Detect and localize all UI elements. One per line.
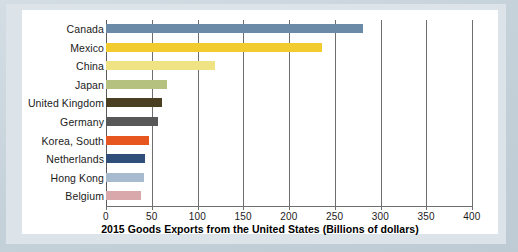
bar-row <box>106 187 472 204</box>
bar-row <box>106 132 472 149</box>
category-axis-labels: CanadaMexicoChinaJapanUnited KingdomGerm… <box>22 20 104 206</box>
category-label: Mexico <box>70 42 104 54</box>
x-tick-label: 350 <box>406 211 446 222</box>
x-tick-label: 200 <box>269 211 309 222</box>
bar-row <box>106 169 472 186</box>
x-tick-label: 100 <box>178 211 218 222</box>
tick-mark-150 <box>243 206 244 210</box>
tick-mark-250 <box>335 206 336 210</box>
x-tick-label: 150 <box>223 211 263 222</box>
bar-row <box>106 57 472 74</box>
bar <box>106 43 322 52</box>
bar-row <box>106 20 472 37</box>
category-label: Canada <box>67 23 104 35</box>
chart-screenshot: CanadaMexicoChinaJapanUnited KingdomGerm… <box>0 0 518 252</box>
bar-row <box>106 39 472 56</box>
tick-mark-300 <box>381 206 382 210</box>
category-label: United Kingdom <box>28 97 104 109</box>
bar <box>106 61 215 70</box>
bar <box>106 80 167 89</box>
tick-mark-100 <box>198 206 199 210</box>
bar <box>106 98 162 107</box>
category-label: China <box>76 60 104 72</box>
x-tick-label: 0 <box>86 211 126 222</box>
bar <box>106 154 145 163</box>
bar-row <box>106 76 472 93</box>
category-label: Germany <box>60 116 104 128</box>
category-label: Japan <box>75 79 104 91</box>
bar-row <box>106 94 472 111</box>
bar <box>106 173 144 182</box>
chart-panel: CanadaMexicoChinaJapanUnited KingdomGerm… <box>22 10 498 234</box>
category-label: Hong Kong <box>51 172 104 184</box>
bar <box>106 191 141 200</box>
plot-area <box>106 20 472 206</box>
gridline-400 <box>472 20 473 206</box>
x-tick-label: 400 <box>452 211 492 222</box>
category-label: Netherlands <box>46 153 104 165</box>
x-axis-title: 2015 Goods Exports from the United State… <box>22 223 498 235</box>
bar <box>106 136 149 145</box>
bar-row <box>106 113 472 130</box>
tick-mark-0 <box>106 206 107 210</box>
bar <box>106 117 158 126</box>
tick-mark-350 <box>426 206 427 210</box>
bar <box>106 24 363 33</box>
tick-mark-400 <box>472 206 473 210</box>
bar-row <box>106 150 472 167</box>
x-tick-label: 250 <box>315 211 355 222</box>
category-label: Belgium <box>65 190 104 202</box>
x-tick-label: 50 <box>132 211 172 222</box>
x-tick-label: 300 <box>361 211 401 222</box>
tick-mark-50 <box>152 206 153 210</box>
category-label: Korea, South <box>42 135 105 147</box>
tick-mark-200 <box>289 206 290 210</box>
